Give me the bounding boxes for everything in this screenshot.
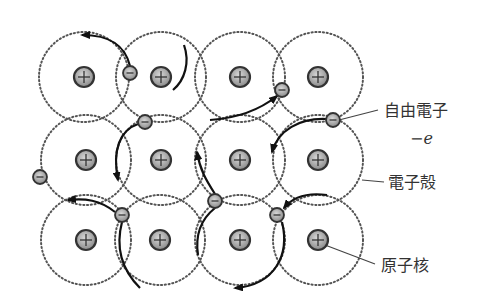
nucleus xyxy=(230,150,250,170)
free-electron xyxy=(123,66,137,80)
nucleus xyxy=(308,67,328,87)
label-free-electron: 自由電子 xyxy=(384,103,448,119)
nucleus xyxy=(151,67,171,87)
free-electron xyxy=(115,208,129,222)
leader-free-electron xyxy=(339,110,378,120)
electron-path-arrow xyxy=(197,208,215,255)
free-electron xyxy=(33,170,47,184)
nucleus xyxy=(76,230,96,250)
nucleus xyxy=(151,150,171,170)
label-electron-shell: 電子殻 xyxy=(388,175,436,191)
nucleus xyxy=(230,67,250,87)
label-charge: −e xyxy=(410,131,433,147)
electron-path-arrow xyxy=(82,35,130,66)
free-electron xyxy=(326,113,340,127)
nucleus xyxy=(230,230,250,250)
nucleus xyxy=(74,67,94,87)
label-nucleus: 原子核 xyxy=(381,258,429,274)
electron-path-arrow xyxy=(116,124,138,180)
leader-nucleus xyxy=(325,245,375,264)
leader-electron-shell xyxy=(362,180,384,182)
nucleus xyxy=(308,230,328,250)
nucleus xyxy=(76,150,96,170)
nucleus xyxy=(150,230,170,250)
free-electron xyxy=(138,115,152,129)
free-electron xyxy=(270,208,284,222)
electron-paths xyxy=(68,35,327,288)
electron-path-arrow xyxy=(173,45,187,90)
free-electron xyxy=(275,83,289,97)
nucleus xyxy=(308,150,328,170)
free-electron xyxy=(208,194,222,208)
electron-path-arrow xyxy=(272,119,326,152)
